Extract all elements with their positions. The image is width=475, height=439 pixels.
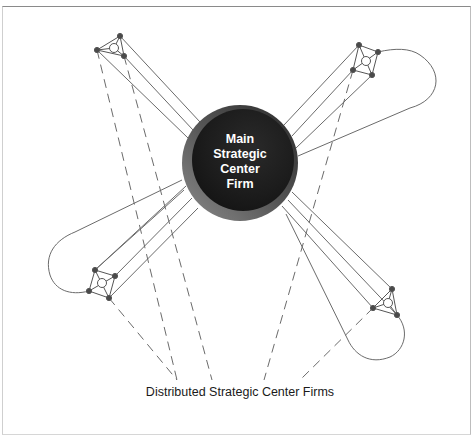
dashed-link-top-left-b	[124, 56, 212, 380]
cluster-top-right	[350, 42, 380, 77]
center-label-line-4: Firm	[182, 177, 298, 192]
center-label-line-3: Center	[182, 162, 298, 177]
center-label-line-1: Main	[182, 132, 298, 147]
loop-bottom-right	[286, 214, 404, 360]
cluster-bottom-left	[86, 267, 117, 300]
strategic-network-diagram	[0, 0, 475, 439]
cluster-top-left	[94, 33, 126, 58]
dashed-link-bottom-right	[300, 308, 373, 380]
center-label-line-2: Strategic	[182, 147, 298, 162]
distributed-firms-label: Distributed Strategic Center Firms	[120, 385, 360, 399]
center-firm-label: Main Strategic Center Firm	[182, 132, 298, 192]
dashed-link-bottom-left	[109, 298, 177, 380]
dashed-link-top-right	[264, 70, 353, 380]
